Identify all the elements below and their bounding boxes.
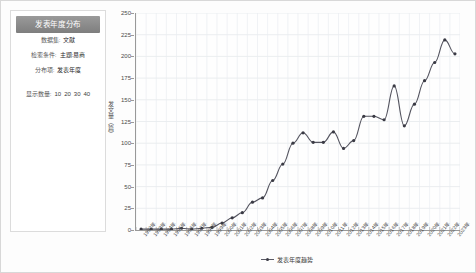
y-axis-tick: 225 <box>121 32 131 38</box>
data-point[interactable] <box>251 201 254 204</box>
y-axis-tick: 0 <box>128 227 131 233</box>
data-point[interactable] <box>271 179 274 182</box>
display-count-option-30[interactable]: 30 <box>74 87 81 102</box>
data-point[interactable] <box>413 103 416 106</box>
data-point[interactable] <box>372 115 375 118</box>
data-point[interactable] <box>423 79 426 82</box>
y-axis-tick-mark <box>131 13 134 14</box>
display-count-option-10[interactable]: 10 <box>54 87 61 102</box>
data-point[interactable] <box>301 131 304 134</box>
data-point[interactable] <box>352 139 355 142</box>
data-point[interactable] <box>342 147 345 150</box>
y-axis-tick: 50 <box>124 184 131 190</box>
info-row-query-label: 检索条件: <box>31 48 57 63</box>
line-chart: 发文量（篇） 2502252001751501251007550250 1992… <box>105 9 469 267</box>
info-row-query-value: 主题:易商 <box>60 48 86 63</box>
data-point[interactable] <box>382 118 385 121</box>
y-axis-tick: 200 <box>121 53 131 59</box>
data-point[interactable] <box>453 52 456 55</box>
y-axis-tick-mark <box>131 165 134 166</box>
plot-area <box>135 13 460 231</box>
info-row-distribution-value: 发表年度 <box>57 63 81 78</box>
y-axis-tick-mark <box>131 187 134 188</box>
y-axis-tick-mark <box>131 100 134 101</box>
display-count-option-20[interactable]: 20 <box>64 87 71 102</box>
info-row-distribution-label: 分布项: <box>35 63 55 78</box>
chart-legend[interactable]: 发表年度趋势 <box>105 255 469 264</box>
data-point[interactable] <box>281 162 284 165</box>
data-point[interactable] <box>403 124 406 127</box>
y-axis-tick: 250 <box>121 10 131 16</box>
data-point[interactable] <box>393 84 396 87</box>
info-row-dataset: 数据集: 文献 <box>15 33 101 48</box>
data-point[interactable] <box>362 115 365 118</box>
y-axis-tick: 125 <box>121 119 131 125</box>
info-row-dataset-value: 文献 <box>63 33 75 48</box>
info-panel: 发表年度分布 数据集: 文献 检索条件: 主题:易商 分布项: 发表年度 显示数… <box>10 10 106 232</box>
data-point[interactable] <box>433 61 436 64</box>
y-axis-tick-mark <box>131 35 134 36</box>
y-axis-ticks: 2502252001751501251007550250 <box>113 13 133 231</box>
publication-year-distribution-widget: 发表年度分布 数据集: 文献 检索条件: 主题:易商 分布项: 发表年度 显示数… <box>0 0 476 273</box>
y-axis-tick: 175 <box>121 75 131 81</box>
data-point[interactable] <box>241 211 244 214</box>
y-axis-tick-mark <box>131 143 134 144</box>
data-point[interactable] <box>443 38 446 41</box>
legend-label: 发表年度趋势 <box>277 255 313 264</box>
display-count-option-40[interactable]: 40 <box>84 87 91 102</box>
data-point[interactable] <box>312 141 315 144</box>
data-point[interactable] <box>291 142 294 145</box>
display-count-row: 显示数量: 10 20 30 40 <box>15 87 101 102</box>
info-row-query: 检索条件: 主题:易商 <box>15 48 101 63</box>
data-point[interactable] <box>322 141 325 144</box>
y-axis-tick-mark <box>131 122 134 123</box>
y-axis-tick-mark <box>131 78 134 79</box>
y-axis-tick: 100 <box>121 140 131 146</box>
y-axis-tick: 150 <box>121 97 131 103</box>
legend-marker-icon <box>261 259 274 260</box>
info-row-dataset-label: 数据集: <box>41 33 61 48</box>
data-point[interactable] <box>261 196 264 199</box>
info-row-distribution: 分布项: 发表年度 <box>15 63 101 78</box>
y-axis-tick-mark <box>131 230 134 231</box>
series-svg <box>136 13 460 230</box>
y-axis-tick: 75 <box>124 162 131 168</box>
page-title: 发表年度分布 <box>16 16 100 33</box>
y-axis-tick-mark <box>131 208 134 209</box>
y-axis-tick: 25 <box>124 205 131 211</box>
data-point[interactable] <box>332 130 335 133</box>
display-count-label: 显示数量: <box>26 87 52 102</box>
y-axis-tick-mark <box>131 56 134 57</box>
